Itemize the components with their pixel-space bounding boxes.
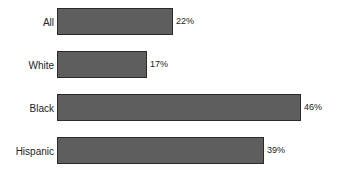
value-label: 17% xyxy=(150,51,168,80)
value-label: 39% xyxy=(267,137,285,166)
bar-row-hispanic: Hispanic 39% xyxy=(0,137,340,166)
bar-white xyxy=(57,51,147,78)
category-label: Hispanic xyxy=(16,137,54,166)
value-label: 22% xyxy=(176,8,194,37)
category-label: White xyxy=(28,51,54,80)
bar-row-all: All 22% xyxy=(0,8,340,37)
category-label: All xyxy=(43,8,54,37)
category-label: Black xyxy=(30,94,54,123)
value-label: 46% xyxy=(304,94,322,123)
bar-all xyxy=(57,8,173,35)
bar-row-black: Black 46% xyxy=(0,94,340,123)
bar-row-white: White 17% xyxy=(0,51,340,80)
bar-black xyxy=(57,94,301,121)
bar-hispanic xyxy=(57,137,264,164)
